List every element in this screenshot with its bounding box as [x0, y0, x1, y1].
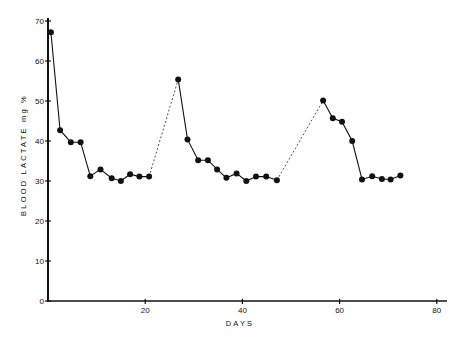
- data-point-marker: [136, 174, 142, 180]
- x-tick-label: 20: [141, 306, 150, 315]
- data-point-marker: [320, 98, 326, 104]
- dashed-connector-line: [149, 79, 178, 176]
- y-tick-label: 10: [35, 257, 44, 266]
- data-point-marker: [359, 176, 365, 182]
- data-point-marker: [98, 166, 104, 172]
- data-point-marker: [68, 139, 74, 145]
- data-point-marker: [175, 76, 181, 82]
- data-point-marker: [78, 139, 84, 145]
- data-point-marker: [349, 138, 355, 144]
- data-point-marker: [109, 175, 115, 181]
- plot-series: [48, 29, 404, 184]
- data-point-marker: [57, 127, 63, 133]
- data-point-marker: [214, 166, 220, 172]
- data-point-marker: [379, 176, 385, 182]
- y-tick-label: 40: [35, 137, 44, 146]
- y-axis: 010203040506070: [35, 17, 51, 306]
- data-point-marker: [118, 178, 124, 184]
- y-tick-label: 60: [35, 57, 44, 66]
- x-tick-label: 80: [432, 306, 441, 315]
- y-tick-label: 70: [35, 17, 44, 26]
- data-point-marker: [223, 175, 229, 181]
- y-axis-title: BLOOD LACTATE mg %: [19, 94, 28, 216]
- y-tick-label: 30: [35, 177, 44, 186]
- data-point-marker: [127, 171, 133, 177]
- data-point-marker: [397, 172, 403, 178]
- y-tick-label: 50: [35, 97, 44, 106]
- y-tick-label: 20: [35, 217, 44, 226]
- data-point-marker: [274, 177, 280, 183]
- data-point-marker: [185, 136, 191, 142]
- data-point-marker: [263, 174, 269, 180]
- x-tick-label: 40: [238, 306, 247, 315]
- data-point-marker: [205, 157, 211, 163]
- data-point-marker: [146, 174, 152, 180]
- x-axis-title: DAYS: [226, 319, 255, 328]
- data-line: [51, 32, 149, 181]
- data-point-marker: [243, 178, 249, 184]
- x-axis: 20406080: [47, 299, 447, 315]
- dashed-connector-line: [277, 101, 323, 181]
- data-point-marker: [87, 173, 93, 179]
- data-point-marker: [195, 157, 201, 163]
- data-point-marker: [339, 119, 345, 125]
- data-point-marker: [388, 176, 394, 182]
- data-point-marker: [253, 174, 259, 180]
- x-tick-label: 60: [335, 306, 344, 315]
- data-point-marker: [369, 173, 375, 179]
- data-line: [323, 101, 400, 180]
- data-line: [178, 79, 277, 181]
- data-point-marker: [234, 170, 240, 176]
- data-point-marker: [330, 115, 336, 121]
- blood-lactate-chart: 010203040506070 20406080 DAYS BLOOD LACT…: [0, 0, 461, 338]
- y-tick-label: 0: [40, 297, 45, 306]
